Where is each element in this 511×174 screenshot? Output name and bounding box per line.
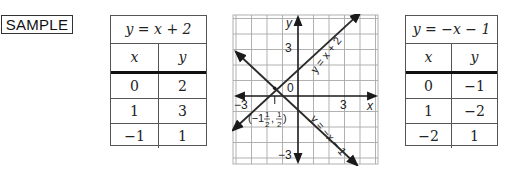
y-tick-3: 3 [285, 41, 292, 55]
svg-text:(−1: (−1 [248, 112, 264, 124]
cell-y: 1 [158, 124, 206, 148]
cell-x: 0 [111, 74, 158, 98]
table-row: −2 1 [406, 124, 497, 148]
cell-x: −1 [111, 124, 158, 148]
table-title: y = −x − 1 [406, 16, 497, 44]
cell-y: 3 [158, 99, 206, 123]
coordinate-graph: y 3 0 −3 3 x −3 y = x + 2 y = −x − 1 (−1… [232, 14, 380, 166]
cell-x: −2 [406, 124, 451, 148]
svg-text:,: , [271, 112, 274, 124]
x-tick-3: 3 [340, 98, 347, 112]
grid [233, 15, 378, 164]
table-title: y = x + 2 [111, 16, 206, 44]
table-y-equals-neg-x-minus-1: y = −x − 1 x y 0 −1 1 −2 −2 1 [405, 15, 498, 146]
table-row: 0 2 [111, 74, 206, 99]
cell-y: −2 [451, 99, 497, 123]
header-y: y [158, 44, 206, 71]
cell-x: 0 [406, 74, 451, 98]
sample-label: SAMPLE [1, 15, 73, 34]
svg-text:2: 2 [277, 120, 282, 129]
svg-text:1: 1 [277, 110, 282, 119]
table-row: −1 1 [111, 124, 206, 148]
cell-y: 1 [451, 124, 497, 148]
header-y: y [451, 44, 497, 71]
svg-text:1: 1 [265, 110, 270, 119]
cell-x: 1 [111, 99, 158, 123]
table-row: 1 3 [111, 99, 206, 124]
table-y-equals-x-plus-2: y = x + 2 x y 0 2 1 3 −1 1 [110, 15, 207, 146]
table-row: 0 −1 [406, 74, 497, 99]
svg-text:): ) [283, 112, 287, 124]
table-row: 1 −2 [406, 99, 497, 124]
svg-text:2: 2 [265, 120, 270, 129]
y-tick-neg-3: −3 [278, 148, 292, 162]
table-header-row: x y [406, 44, 497, 74]
header-x: x [111, 44, 158, 71]
x-tick-neg-3: −3 [234, 98, 248, 112]
header-x: x [406, 44, 451, 71]
intersection-point [273, 86, 277, 90]
y-axis-label: y [285, 16, 293, 30]
x-axis-label: x [366, 99, 374, 113]
origin-label: 0 [287, 81, 294, 95]
cell-y: −1 [451, 74, 497, 98]
cell-x: 1 [406, 99, 451, 123]
intersection-label: (−1 1 2 , 1 2 ) [248, 110, 287, 129]
cell-y: 2 [158, 74, 206, 98]
table-header-row: x y [111, 44, 206, 74]
